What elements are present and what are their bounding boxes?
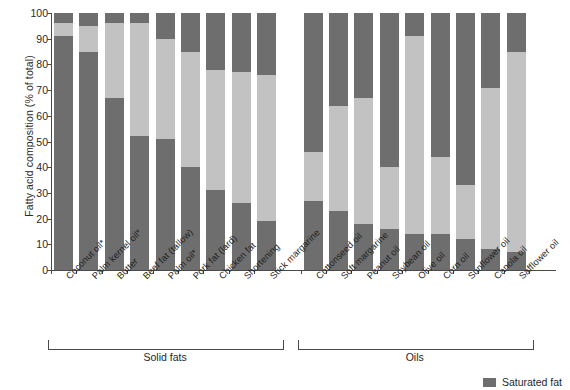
bar-canola-oil[interactable]	[481, 13, 500, 270]
y-tick-label: 0	[22, 264, 48, 276]
y-tick-label: 10	[22, 238, 48, 250]
bar-coconut-oil[interactable]	[54, 13, 73, 270]
bar-palm-oil[interactable]	[156, 13, 175, 270]
bar-segment-poly	[354, 13, 373, 98]
bar-segment-poly	[456, 13, 475, 185]
bar-shortening[interactable]	[232, 13, 251, 270]
y-tick-mark	[47, 13, 52, 14]
y-tick-label: 20	[22, 213, 48, 225]
bar-segment-poly	[257, 13, 276, 75]
bar-segment-sat	[79, 52, 98, 270]
bar-safflower-oil[interactable]	[507, 13, 526, 270]
bar-segment-poly	[304, 13, 323, 152]
bar-segment-mono	[79, 26, 98, 52]
bar-soft-margarine[interactable]	[329, 13, 348, 270]
bar-segment-poly	[156, 13, 175, 39]
y-tick-label: 90	[22, 33, 48, 45]
x-tick-mark	[51, 270, 52, 274]
bar-palm-kernel-oil[interactable]	[79, 13, 98, 270]
group-label: Solid fats	[48, 351, 282, 363]
bar-segment-mono	[54, 23, 73, 36]
y-tick-label: 40	[22, 161, 48, 173]
y-tick-label: 50	[22, 136, 48, 148]
bar-segment-mono	[206, 70, 225, 191]
y-tick-mark	[47, 64, 52, 65]
bar-segment-poly	[130, 13, 149, 23]
bar-segment-mono	[431, 157, 450, 234]
bar-segment-poly	[481, 13, 500, 88]
y-tick-mark	[47, 219, 52, 220]
legend: Saturated fat	[483, 376, 562, 388]
bar-segment-poly	[232, 13, 251, 72]
bar-segment-poly	[431, 13, 450, 157]
bar-segment-mono	[181, 52, 200, 168]
y-tick-label: 80	[22, 58, 48, 70]
bar-segment-mono	[405, 36, 424, 234]
bar-segment-sat	[54, 36, 73, 270]
category-labels: Coconut oil*Palm kernel oil*ButterBeef f…	[53, 274, 556, 336]
legend-swatch-saturated-fat	[483, 378, 496, 387]
bar-segment-poly	[329, 13, 348, 106]
plot-area: 0102030405060708090100	[53, 13, 556, 270]
bar-sunflower-oil[interactable]	[456, 13, 475, 270]
bar-olive-oil[interactable]	[405, 13, 424, 270]
y-tick-mark	[47, 39, 52, 40]
y-tick-mark	[47, 142, 52, 143]
group-label: Oils	[298, 351, 532, 363]
y-tick-mark	[47, 193, 52, 194]
bar-segment-mono	[304, 152, 323, 201]
group-brackets: Solid fatsOils	[0, 340, 570, 368]
y-tick-label: 60	[22, 110, 48, 122]
bar-segment-mono	[156, 39, 175, 139]
bar-segment-mono	[105, 23, 124, 98]
bar-segment-mono	[354, 98, 373, 224]
y-tick-mark	[47, 90, 52, 91]
bar-segment-mono	[481, 88, 500, 250]
bar-segment-poly	[405, 13, 424, 36]
bar-segment-mono	[257, 75, 276, 221]
bar-segment-poly	[105, 13, 124, 23]
bar-segment-sat	[130, 136, 149, 270]
bar-segment-mono	[380, 167, 399, 229]
y-tick-label: 30	[22, 187, 48, 199]
bar-segment-poly	[507, 13, 526, 52]
y-tick-mark	[47, 244, 52, 245]
y-tick-mark	[47, 116, 52, 117]
bar-segment-mono	[329, 106, 348, 211]
y-tick-label: 100	[22, 7, 48, 19]
bar-chicken-fat[interactable]	[206, 13, 225, 270]
bar-stick-margarine[interactable]	[257, 13, 276, 270]
bar-segment-poly	[54, 13, 73, 23]
bar-corn-oil[interactable]	[431, 13, 450, 270]
bar-segment-mono	[130, 23, 149, 136]
group-bracket	[298, 340, 534, 350]
chart-root: Fatty acid composition (% of total) 0102…	[0, 0, 570, 390]
bar-segment-poly	[380, 13, 399, 167]
y-tick-mark	[47, 167, 52, 168]
y-tick-label: 70	[22, 84, 48, 96]
group-bracket	[48, 340, 284, 350]
bar-segment-mono	[507, 52, 526, 252]
bar-segment-poly	[206, 13, 225, 70]
bar-butter[interactable]	[105, 13, 124, 270]
bar-segment-poly	[181, 13, 200, 52]
bar-segment-mono	[456, 185, 475, 239]
bar-segment-mono	[232, 72, 251, 203]
legend-label-saturated-fat: Saturated fat	[502, 376, 562, 388]
bar-series-group	[53, 13, 556, 270]
bar-segment-poly	[79, 13, 98, 26]
